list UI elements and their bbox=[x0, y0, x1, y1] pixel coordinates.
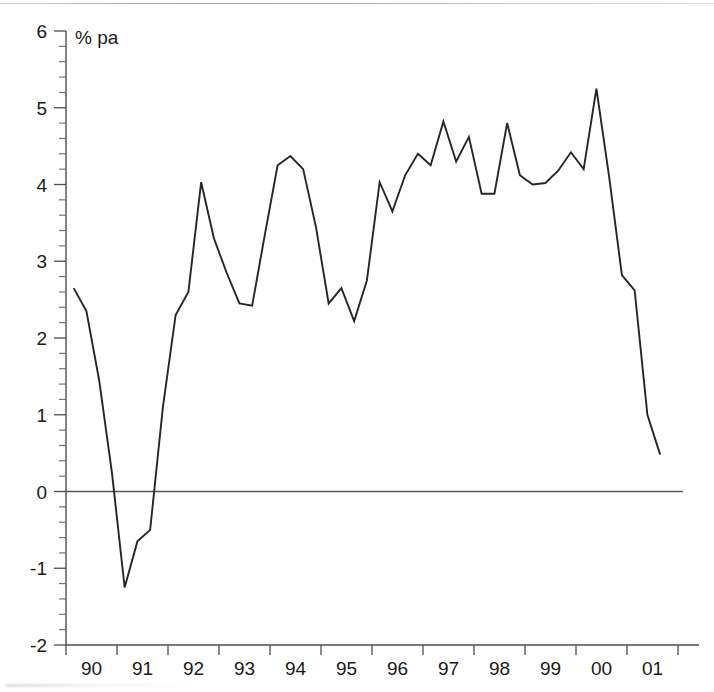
x-axis-tick-label: 90 bbox=[81, 658, 102, 679]
x-axis-tick-label: 95 bbox=[336, 658, 357, 679]
x-axis-tick-label: 00 bbox=[591, 658, 612, 679]
x-axis-tick-label: 93 bbox=[234, 658, 255, 679]
data-series-group bbox=[74, 89, 661, 588]
y-axis-tick-label: 0 bbox=[36, 482, 47, 503]
x-axis-tick-label: 99 bbox=[540, 658, 561, 679]
y-axis-tick-label: -2 bbox=[30, 635, 47, 656]
x-axis-tick-label: 01 bbox=[642, 658, 663, 679]
x-axis-tick-label: 96 bbox=[387, 658, 408, 679]
x-axis-tick-label: 98 bbox=[489, 658, 510, 679]
x-axis: 909192939495969798990001 bbox=[66, 645, 699, 679]
y-axis-unit-label: % pa bbox=[75, 27, 119, 48]
y-axis-tick-label: 3 bbox=[36, 251, 47, 272]
y-axis-tick-label: 5 bbox=[36, 98, 47, 119]
y-axis-tick-label: 4 bbox=[36, 175, 47, 196]
y-axis-tick-label: 1 bbox=[36, 405, 47, 426]
series-line-0 bbox=[74, 89, 661, 588]
line-chart-plot: -2-10123456 909192939495969798990001 % p… bbox=[0, 0, 714, 692]
chart-container: -2-10123456 909192939495969798990001 % p… bbox=[0, 0, 714, 692]
x-axis-tick-label: 91 bbox=[132, 658, 153, 679]
y-axis-tick-label: 6 bbox=[36, 21, 47, 42]
x-axis-tick-label: 94 bbox=[285, 658, 307, 679]
x-axis-tick-label: 92 bbox=[183, 658, 204, 679]
x-axis-tick-label: 97 bbox=[438, 658, 459, 679]
y-axis: -2-10123456 bbox=[30, 21, 66, 656]
y-axis-tick-label: -1 bbox=[30, 558, 47, 579]
y-axis-tick-label: 2 bbox=[36, 328, 47, 349]
